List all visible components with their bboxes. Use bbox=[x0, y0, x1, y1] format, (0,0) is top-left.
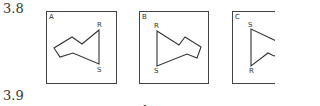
shape-c bbox=[251, 29, 275, 66]
shape-b bbox=[157, 31, 201, 66]
point-label-b-s: S bbox=[154, 67, 158, 75]
option-c-letter: c. bbox=[236, 103, 247, 106]
option-c: c. 2 ro bbox=[228, 88, 267, 106]
point-label-c-s: S bbox=[248, 21, 252, 29]
option-b-letter: b. bbox=[143, 103, 155, 106]
point-label-a-r: R bbox=[97, 21, 102, 29]
option-a: a. 3 tr bbox=[42, 88, 78, 106]
point-label-c-r: R bbox=[249, 67, 254, 75]
point-label-b-r: R bbox=[154, 22, 159, 30]
option-a-letter: a. bbox=[50, 103, 62, 106]
option-b: b. 1 re bbox=[135, 88, 174, 106]
point-label-a-s: S bbox=[97, 66, 101, 74]
shape-a bbox=[54, 30, 99, 64]
